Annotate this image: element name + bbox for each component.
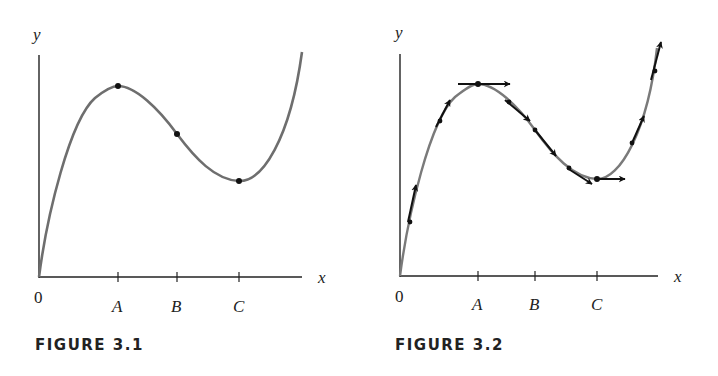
figure-canvas: y x 0 A B C FIGURE 3.1	[0, 0, 718, 376]
tick-label-b: B	[529, 295, 540, 314]
tick-label-a: A	[471, 295, 483, 314]
function-curve	[39, 52, 302, 277]
function-curve	[400, 48, 657, 276]
tangent-arrow-icon	[567, 168, 592, 184]
tangent-arrow-icon	[436, 100, 450, 127]
tick-label-b: B	[171, 297, 182, 316]
y-axis-label: y	[393, 23, 403, 42]
origin-label: 0	[34, 288, 43, 307]
tick-label-c: C	[591, 295, 603, 314]
figure-caption: FIGURE 3.1	[35, 336, 144, 354]
curve-points	[408, 69, 658, 225]
figure-3-2: y x 0 A B C FIGURE 3.2	[393, 23, 682, 354]
point-min-c	[236, 178, 242, 184]
figure-caption: FIGURE 3.2	[395, 336, 504, 354]
point-max-a	[115, 83, 121, 89]
tangent-arrow-icon	[535, 130, 556, 156]
tick-label-c: C	[233, 297, 245, 316]
tangent-arrow-icon	[651, 42, 661, 80]
y-axis-label: y	[31, 25, 41, 44]
point-inflection-b	[174, 131, 180, 137]
origin-label: 0	[395, 287, 404, 306]
tick-label-a: A	[111, 297, 123, 316]
x-axis-label: x	[317, 268, 326, 287]
tangent-arrow-icon	[632, 116, 644, 143]
tangent-arrow-icon	[408, 185, 416, 222]
x-axis-label: x	[673, 267, 682, 286]
figure-3-1: y x 0 A B C FIGURE 3.1	[31, 25, 326, 354]
